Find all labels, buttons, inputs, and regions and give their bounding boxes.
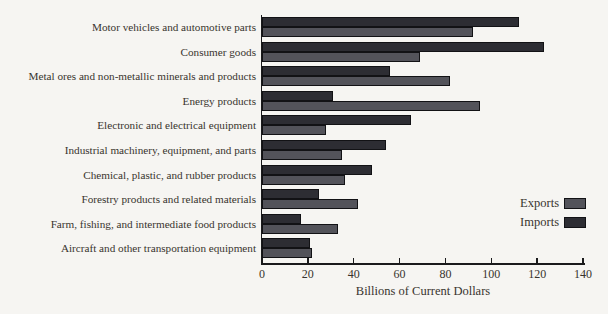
y-axis-line <box>261 15 263 265</box>
x-axis-line <box>261 263 585 265</box>
exports-bar <box>262 199 358 209</box>
category-label: Motor vehicles and automotive parts <box>0 20 256 34</box>
x-axis-tick <box>261 258 263 263</box>
imports-bar <box>262 214 301 224</box>
x-axis-tick-label: 20 <box>288 267 328 282</box>
exports-bar <box>262 224 338 234</box>
x-axis-tick <box>307 258 309 263</box>
legend-item-exports: Exports <box>520 196 586 211</box>
imports-bar <box>262 66 390 76</box>
category-label: Electronic and electrical equipment <box>0 118 256 132</box>
legend: Exports Imports <box>520 196 586 230</box>
x-axis-tick-label: 60 <box>380 267 420 282</box>
exports-bar <box>262 248 312 258</box>
exports-bar <box>262 27 473 37</box>
legend-item-imports: Imports <box>520 215 586 230</box>
legend-label-exports: Exports <box>520 196 559 211</box>
x-axis-tick-label: 0 <box>242 267 282 282</box>
x-axis-tick-label: 40 <box>334 267 374 282</box>
imports-bar <box>262 189 319 199</box>
x-axis-tick-label: 80 <box>425 267 465 282</box>
exports-bar <box>262 175 345 185</box>
trade-bar-chart-figure: Motor vehicles and automotive partsConsu… <box>0 0 608 314</box>
category-label: Energy products <box>0 94 256 108</box>
x-axis-tick-label: 100 <box>471 267 511 282</box>
exports-bar <box>262 150 342 160</box>
x-axis-tick <box>491 258 493 263</box>
x-axis-title: Billions of Current Dollars <box>262 284 584 299</box>
exports-swatch <box>564 198 586 209</box>
category-label: Consumer goods <box>0 45 256 59</box>
x-axis-tick <box>445 258 447 263</box>
imports-bar <box>262 165 372 175</box>
exports-bar <box>262 101 480 111</box>
exports-bar <box>262 52 420 62</box>
category-label: Chemical, plastic, and rubber products <box>0 168 256 182</box>
imports-bar <box>262 17 519 27</box>
legend-label-imports: Imports <box>520 215 559 230</box>
imports-bar <box>262 42 544 52</box>
imports-swatch <box>564 217 586 228</box>
x-axis-tick <box>536 258 538 263</box>
imports-bar <box>262 115 411 125</box>
category-label: Metal ores and non-metallic minerals and… <box>0 69 256 83</box>
imports-bar <box>262 140 386 150</box>
x-axis-tick <box>582 258 584 263</box>
category-label: Aircraft and other transportation equipm… <box>0 241 256 255</box>
exports-bar <box>262 76 450 86</box>
category-label: Industrial machinery, equipment, and par… <box>0 143 256 157</box>
exports-bar <box>262 125 326 135</box>
x-axis-tick-label: 120 <box>517 267 557 282</box>
imports-bar <box>262 238 310 248</box>
imports-bar <box>262 91 333 101</box>
category-label: Forestry products and related materials <box>0 192 256 206</box>
x-axis-tick <box>399 258 401 263</box>
x-axis-tick-label: 140 <box>563 267 603 282</box>
category-label: Farm, fishing, and intermediate food pro… <box>0 217 256 231</box>
x-axis-tick <box>353 258 355 263</box>
